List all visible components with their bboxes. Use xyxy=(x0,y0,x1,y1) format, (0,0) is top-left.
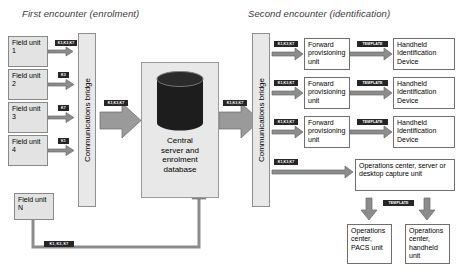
field-unit-4-box[interactable]: Field unit 4 xyxy=(8,135,48,166)
forward-provisioning-unit-2-label: Forward provisioning unit xyxy=(308,80,345,104)
field-unit-1-label: Field unit 1 xyxy=(12,39,40,54)
arrow-bridge-to-provisioning-3 xyxy=(272,126,303,138)
handheld-identification-device-2[interactable]: Handheld Identification Device xyxy=(393,77,455,109)
field-unit-3-box[interactable]: Field unit 3 xyxy=(8,102,48,133)
badge-template-operations: TEMPLATE xyxy=(383,200,414,206)
forward-provisioning-unit-1-label: Forward provisioning unit xyxy=(308,41,345,65)
handheld-identification-device-2-label: Handheld Identification Device xyxy=(397,80,436,104)
operations-capture-unit-label: Operations center, server or desktop cap… xyxy=(359,162,446,177)
field-unit-3-label: Field unit 3 xyxy=(12,105,40,120)
communications-bridge-right: Communications bridge xyxy=(252,33,270,207)
arrow-fieldunit-4 xyxy=(48,146,74,156)
handheld-identification-device-3-label: Handheld Identification Device xyxy=(397,119,436,143)
forward-provisioning-unit-3[interactable]: Forward provisioning unit xyxy=(304,116,350,148)
communications-bridge-right-label: Communications bridge xyxy=(257,78,266,162)
handheld-identification-device-1-label: Handheld Identification Device xyxy=(397,41,436,65)
badge-fieldunit-3: K7 xyxy=(58,105,69,111)
forward-provisioning-unit-1[interactable]: Forward provisioning unit xyxy=(304,38,350,70)
badge-server-inbound: K1,K3,K7 xyxy=(104,100,128,106)
badge-operations-in: K1,K3,K7 xyxy=(274,159,298,165)
badge-fieldunit-2: K3 xyxy=(58,72,69,78)
arrow-bridge-to-operations xyxy=(272,166,353,178)
arrow-provisioning-to-device-1 xyxy=(350,48,392,60)
field-unit-2-label: Field unit 2 xyxy=(12,72,40,87)
communications-bridge-left-label: Communications bridge xyxy=(83,78,92,162)
arrow-capture-to-handheld xyxy=(419,198,435,220)
heading-second-encounter: Second encounter (identification) xyxy=(248,8,390,19)
badge-template-2: TEMPLATE xyxy=(357,80,388,86)
heading-first-encounter: First encounter (enrolment) xyxy=(22,8,139,19)
badge-provisioning-in-3: K1,K3,K7 xyxy=(274,119,298,125)
badge-template-3: TEMPLATE xyxy=(357,119,388,125)
badge-provisioning-in-2: K1,K3,K7 xyxy=(274,80,298,86)
communications-bridge-left: Communications bridge xyxy=(78,33,96,207)
arrow-bridge-to-server xyxy=(100,103,141,138)
badge-fieldunit-4: K1 xyxy=(58,138,69,144)
badge-fieldunit-1: K1,K3,K7 xyxy=(55,40,77,46)
badge-fieldunit-n: K1, K3, K7 xyxy=(44,241,74,247)
server-label-line-1: Central xyxy=(141,136,219,146)
server-label-line-2: server and xyxy=(141,146,219,156)
forward-provisioning-unit-2[interactable]: Forward provisioning unit xyxy=(304,77,350,109)
diagram-canvas: First encounter (enrolment) Second encou… xyxy=(0,0,463,280)
arrow-fieldunit-1 xyxy=(48,47,73,56)
arrow-provisioning-to-device-2 xyxy=(350,87,392,99)
arrow-capture-to-pacs xyxy=(361,198,377,220)
arrow-bridge-to-provisioning-1 xyxy=(272,48,303,60)
handheld-identification-device-1[interactable]: Handheld Identification Device xyxy=(393,38,455,70)
badge-server-outbound: K1,K3,K7 xyxy=(223,100,247,106)
badge-template-1: TEMPLATE xyxy=(357,41,388,47)
arrow-fieldunit-3 xyxy=(48,113,74,123)
arrow-bridge-to-provisioning-2 xyxy=(272,87,303,99)
forward-provisioning-unit-3-label: Forward provisioning unit xyxy=(308,119,345,143)
field-unit-1-box[interactable]: Field unit 1 xyxy=(8,36,48,67)
central-server-panel xyxy=(141,62,219,198)
field-unit-n-box[interactable]: Field unit N xyxy=(14,193,54,220)
operations-handheld-unit-label: Operations center, handheld unit xyxy=(409,227,443,259)
operations-handheld-unit-box[interactable]: Operations center, handheld unit xyxy=(405,224,450,264)
field-unit-4-label: Field unit 4 xyxy=(12,138,40,153)
badge-provisioning-in-1: K1,K3,K7 xyxy=(274,41,298,47)
arrow-provisioning-to-device-3 xyxy=(350,126,392,138)
operations-pacs-unit-box[interactable]: Operations center, PACS unit xyxy=(347,224,392,264)
handheld-identification-device-3[interactable]: Handheld Identification Device xyxy=(393,116,455,148)
server-label-line-4: database xyxy=(141,165,219,175)
operations-capture-unit-box[interactable]: Operations center, server or desktop cap… xyxy=(355,159,455,191)
server-label-line-3: enrolment xyxy=(141,155,219,165)
operations-pacs-unit-label: Operations center, PACS unit xyxy=(351,227,385,251)
field-unit-n-label: Field unit N xyxy=(18,196,46,211)
arrow-fieldunit-2 xyxy=(48,80,74,90)
field-unit-2-box[interactable]: Field unit 2 xyxy=(8,69,48,100)
